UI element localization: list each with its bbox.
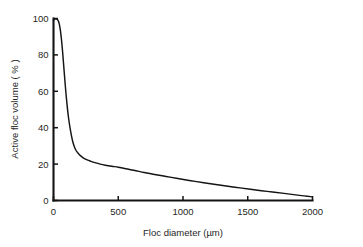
y-tick-label-40: 40	[38, 122, 49, 133]
x-axis-title: Floc diameter (µm)	[143, 227, 223, 238]
x-tick-label-1000: 1000	[172, 206, 193, 217]
y-tick-label-0: 0	[43, 195, 48, 206]
x-tick-label-1500: 1500	[237, 206, 258, 217]
data-series-active-floc-volume	[54, 19, 313, 197]
chart-figure: 020406080100 0500100015002000 Floc diame…	[0, 0, 363, 247]
y-tick-label-80: 80	[38, 49, 49, 60]
x-tick-label-2000: 2000	[302, 206, 323, 217]
y-tick-label-60: 60	[38, 86, 49, 97]
x-tick-label-500: 500	[110, 206, 126, 217]
x-axis-tick-labels: 0500100015002000	[51, 206, 323, 217]
x-tick-label-0: 0	[51, 206, 56, 217]
y-tick-label-100: 100	[33, 13, 49, 24]
y-axis-tick-labels: 020406080100	[33, 13, 49, 206]
line-chart: 020406080100 0500100015002000 Floc diame…	[0, 0, 363, 247]
axis-lines	[54, 19, 313, 201]
y-axis-title: Active floc volume ( % )	[9, 59, 20, 158]
y-tick-label-20: 20	[38, 159, 49, 170]
